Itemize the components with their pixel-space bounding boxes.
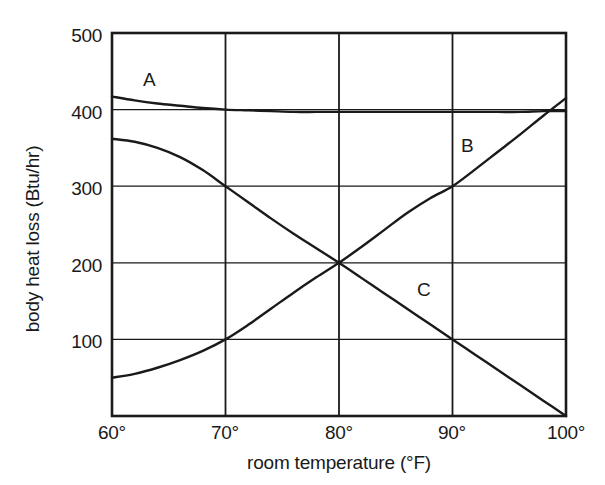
y-tick-label-100: 100 bbox=[32, 332, 102, 351]
series-label-b: B bbox=[461, 136, 474, 155]
series-label-c: C bbox=[417, 280, 431, 299]
y-tick-label-200: 200 bbox=[32, 256, 102, 275]
series-label-a: A bbox=[143, 70, 156, 89]
gridlines bbox=[112, 33, 566, 416]
y-tick-label-400: 400 bbox=[32, 103, 102, 122]
x-tick-label-90: 90° bbox=[412, 423, 492, 442]
x-tick-label-60: 60° bbox=[72, 423, 152, 442]
chart-figure: body heat loss (Btu/hr) room temperature… bbox=[0, 0, 605, 485]
y-tick-label-300: 300 bbox=[32, 179, 102, 198]
plot-area bbox=[0, 0, 605, 485]
x-tick-label-100: 100° bbox=[526, 423, 605, 442]
x-tick-label-80: 80° bbox=[299, 423, 379, 442]
y-tick-label-500: 500 bbox=[32, 26, 102, 45]
x-axis-title: room temperature (°F) bbox=[112, 452, 566, 474]
x-tick-label-70: 70° bbox=[185, 423, 265, 442]
